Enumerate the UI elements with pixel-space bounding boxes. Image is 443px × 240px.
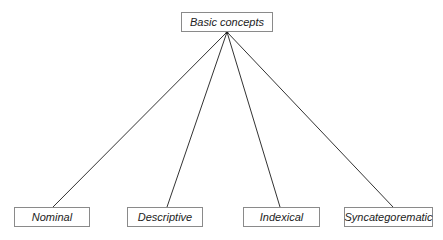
edge-root-descriptive	[167, 32, 227, 207]
edge-root-syncategorematic	[227, 32, 393, 207]
node-nominal: Nominal	[14, 207, 90, 227]
node-indexical: Indexical	[243, 207, 320, 227]
node-descriptive: Descriptive	[127, 207, 203, 227]
node-syncategorematic: Syncategorematic	[344, 207, 433, 227]
node-basic-concepts: Basic concepts	[181, 12, 273, 32]
edge-root-nominal	[53, 32, 227, 207]
edges	[0, 0, 443, 240]
edge-root-indexical	[227, 32, 280, 207]
